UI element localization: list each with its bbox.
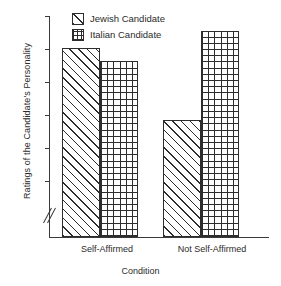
- y-tick-mark: [45, 82, 50, 83]
- legend-item-jewish: Jewish Candidate: [72, 11, 165, 26]
- plot-area: 100 90 80 70 60 50: [49, 16, 269, 238]
- x-tick-label-not-self-affirmed: Not Self-Affirmed: [147, 244, 277, 254]
- bar-jewish-not-self-affirmed: [163, 120, 201, 237]
- bar-italian-self-affirmed: [100, 61, 138, 237]
- y-tick-mark: [45, 148, 50, 149]
- y-tick-mark: [45, 115, 50, 116]
- bar-chart: Ratings of the Candidate's Personality 1…: [0, 0, 281, 286]
- legend-label: Italian Candidate: [90, 29, 161, 40]
- bar-jewish-self-affirmed: [62, 48, 100, 237]
- x-axis-label: Condition: [0, 266, 281, 276]
- x-tick-label-self-affirmed: Self-Affirmed: [52, 244, 162, 254]
- y-tick-mark: [45, 16, 50, 17]
- cross-hatch-swatch-icon: [72, 29, 84, 41]
- y-tick-mark: [45, 49, 50, 50]
- legend: Jewish Candidate Italian Candidate: [72, 11, 165, 43]
- legend-label: Jewish Candidate: [90, 13, 165, 24]
- y-axis-label: Ratings of the Candidate's Personality: [22, 21, 32, 221]
- diagonal-hatch-swatch-icon: [72, 13, 84, 25]
- x-axis-line: [49, 237, 269, 238]
- legend-item-italian: Italian Candidate: [72, 27, 165, 42]
- axis-break-icon: [43, 205, 57, 227]
- bar-italian-not-self-affirmed: [201, 31, 239, 237]
- y-tick-mark: [45, 181, 50, 182]
